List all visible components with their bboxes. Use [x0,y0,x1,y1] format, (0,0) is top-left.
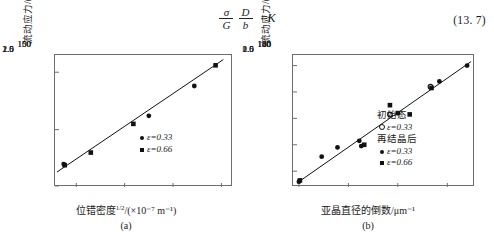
legend-row: ε=0.66 [136,144,172,156]
marker-glyph [140,136,144,140]
legend-label: ε=0.66 [147,144,172,156]
legend-row: ε=0.33 [136,132,172,144]
diameter-burgers-fraction: D b [239,6,253,32]
x-axis-title-a: 位错密度1/2/(×10⁻⁷ m⁻¹) [8,202,244,217]
legend-a: ε=0.33ε=0.66 [136,132,172,155]
plot-area-a [54,54,232,186]
x-tick-label: 2.0 [242,44,253,54]
panel-label-b: (b) [248,220,488,231]
panel-label-a: (a) [8,220,244,231]
x-tick-label: 2.5 [2,44,13,54]
legend-group-heading: 初始态 [376,110,417,122]
figure-b: 流动应力/(MN·m⁻²) 6080100120140 0.51.01.52.0… [248,44,488,248]
legend-row: ε=0.66 [376,157,417,169]
y-axis-title-b: 流动应力/(MN·m⁻²) [258,0,272,44]
shear-modulus-symbol: G [219,18,233,31]
diameter-symbol: D [239,6,253,18]
legend-marker-open-circle-icon [376,122,387,134]
legend-label: ε=0.33 [147,132,172,144]
marker-glyph [140,148,144,152]
equation-row: σ G D b =K (13. 7) [0,0,494,44]
marker-glyph [380,161,384,165]
figures-container: 流动应力/(MN·m⁻²) 50100150 1.01.52.02.5 ε=0.… [0,44,494,248]
legend-marker-filled-square-icon [136,144,147,156]
marker-glyph [379,124,385,130]
legend-row: ε=0.33 [376,122,417,134]
legend-marker-filled-circle-icon [376,146,387,158]
legend-label: ε=0.33 [387,146,412,158]
marker-glyph [380,150,384,154]
x-axis-title-a-units: /(×10⁻⁷ m⁻¹) [124,205,176,216]
stress-modulus-fraction: σ G [219,6,233,32]
equation-number: (13. 7) [453,14,486,26]
legend-b: 初始态ε=0.33再结晶后ε=0.33ε=0.66 [376,110,417,169]
plot-inner-a [55,55,231,185]
figure-a: 流动应力/(MN·m⁻²) 50100150 1.01.52.02.5 ε=0.… [8,44,244,248]
legend-label: ε=0.33 [387,122,412,134]
legend-row: ε=0.33 [376,146,417,158]
legend-group-heading: 再结晶后 [376,134,417,146]
legend-marker-filled-square-icon [376,157,387,169]
y-axis-title-a: 流动应力/(MN·m⁻²) [20,0,34,44]
legend-marker-filled-circle-icon [136,132,147,144]
burgers-vector-symbol: b [239,18,253,31]
sigma-symbol: σ [219,6,233,18]
scatter-svg-a [55,55,233,187]
legend-label: ε=0.66 [387,157,412,169]
equation-display: σ G D b =K [0,6,494,32]
x-axis-title-a-main: 位错密度 [76,205,116,216]
x-axis-title-b: 亚晶直径的倒数/μm⁻¹ [248,202,488,217]
